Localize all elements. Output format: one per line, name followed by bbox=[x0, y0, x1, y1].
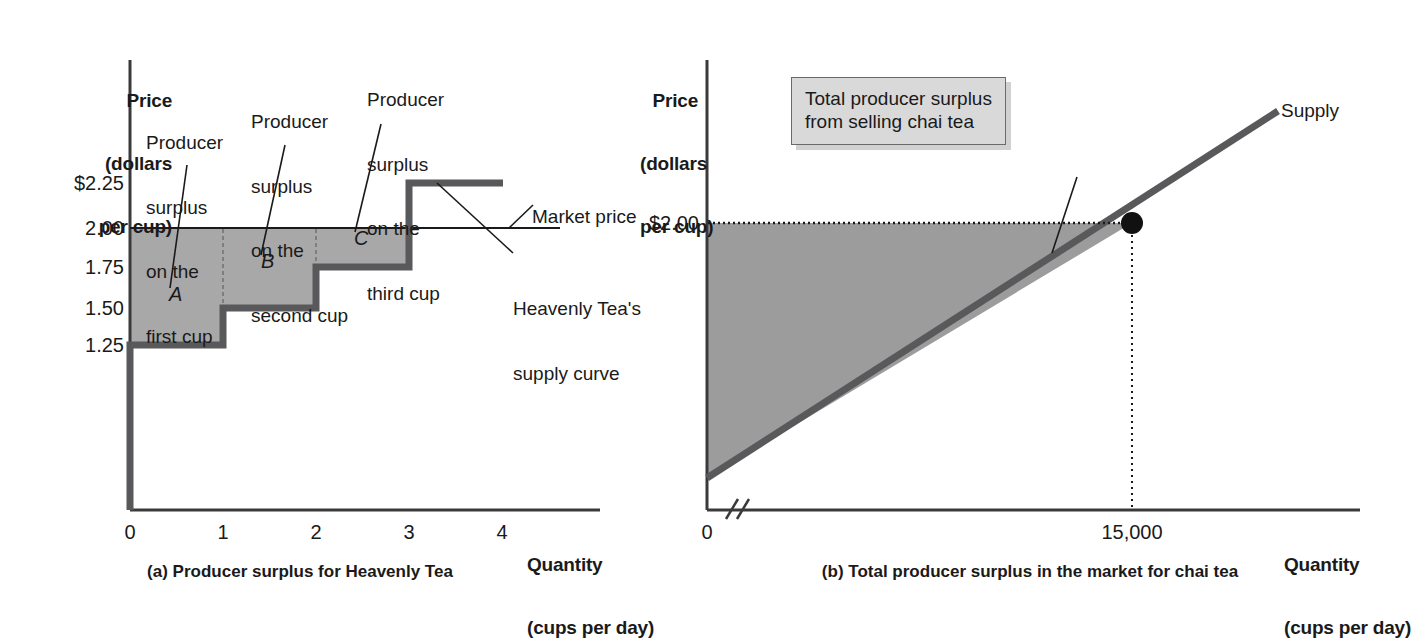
annotation-third-cup-line1: Producer bbox=[367, 89, 444, 111]
annotation-producer-surplus-third-cup: Producer surplus on the third cup bbox=[367, 46, 444, 347]
region-label-a: A bbox=[169, 283, 182, 306]
annotation-third-cup-line2: surplus bbox=[367, 154, 444, 176]
annotation-market-price-line1: Market price bbox=[532, 206, 637, 228]
annotation-supply-curve-line2: supply curve bbox=[513, 363, 641, 385]
region-label-b: B bbox=[261, 250, 274, 273]
annotation-third-cup-line3: on the bbox=[367, 218, 444, 240]
panel-a-caption: (a) Producer surplus for Heavenly Tea bbox=[0, 562, 600, 582]
panel-a-y-tick-2-00: 2.00 bbox=[60, 217, 124, 240]
panel-a-x-tick-0: 0 bbox=[113, 521, 147, 544]
panel-a-x-tick-2: 2 bbox=[299, 521, 333, 544]
annotation-second-cup-line1: Producer bbox=[251, 111, 348, 133]
annotation-first-cup-line4: first cup bbox=[146, 326, 223, 348]
panel-b-x-axis-title-line2: (cups per day) bbox=[1284, 617, 1411, 638]
callout-line2: from selling chai tea bbox=[805, 110, 992, 133]
panel-a-x-tick-4: 4 bbox=[485, 521, 519, 544]
panel-b-x-tick-15000: 15,000 bbox=[1082, 521, 1182, 544]
annotation-third-cup-line4: third cup bbox=[367, 283, 444, 305]
leader-line-market-price bbox=[509, 205, 533, 228]
leader-line-supply-curve bbox=[437, 183, 513, 253]
panel-a-x-tick-1: 1 bbox=[206, 521, 240, 544]
supply-curve-label: Supply bbox=[1281, 100, 1339, 122]
panel-a-y-tick-1-75: 1.75 bbox=[60, 256, 124, 279]
annotation-second-cup-line2: surplus bbox=[251, 176, 348, 198]
annotation-producer-surplus-first-cup: Producer surplus on the first cup bbox=[146, 89, 223, 390]
annotation-second-cup-line4: second cup bbox=[251, 305, 348, 327]
panel-a-x-axis-title-line2: (cups per day) bbox=[527, 617, 654, 638]
panel-b-y-axis-title: Price (dollars per cup) bbox=[640, 48, 698, 279]
panel-b-y-tick-2-00: $2.00 bbox=[635, 212, 699, 235]
panel-a-y-tick-1-25: 1.25 bbox=[60, 334, 124, 357]
panel-b-total-producer-surplus: Price (dollars per cup) $2.00 0 15,000 Q… bbox=[640, 0, 1427, 625]
panel-a-y-tick-1-50: 1.50 bbox=[60, 297, 124, 320]
annotation-heavenly-tea-supply-curve: Heavenly Tea's supply curve bbox=[513, 255, 641, 427]
annotation-first-cup-line1: Producer bbox=[146, 132, 223, 154]
annotation-supply-curve-line1: Heavenly Tea's bbox=[513, 298, 641, 320]
annotation-first-cup-line2: surplus bbox=[146, 197, 223, 219]
annotation-first-cup-line3: on the bbox=[146, 261, 223, 283]
panel-b-x-tick-0: 0 bbox=[690, 521, 724, 544]
annotation-producer-surplus-second-cup: Producer surplus on the second cup bbox=[251, 68, 348, 369]
total-producer-surplus-callout: Total producer surplus from selling chai… bbox=[791, 77, 1006, 145]
panel-b-y-axis-title-line1: Price bbox=[640, 90, 698, 111]
panel-b-caption: (b) Total producer surplus in the market… bbox=[680, 562, 1380, 582]
panel-a-y-tick-2-25: $2.25 bbox=[60, 172, 124, 195]
callout-line1: Total producer surplus bbox=[805, 87, 992, 110]
panel-a-x-tick-3: 3 bbox=[392, 521, 426, 544]
panel-a-producer-surplus-heavenly-tea: Price (dollars per cup) $2.25 2.00 1.75 … bbox=[0, 0, 680, 625]
equilibrium-point-marker bbox=[1121, 212, 1143, 234]
panel-b-y-axis-title-line2: (dollars bbox=[640, 153, 698, 174]
region-label-c: C bbox=[354, 227, 368, 250]
